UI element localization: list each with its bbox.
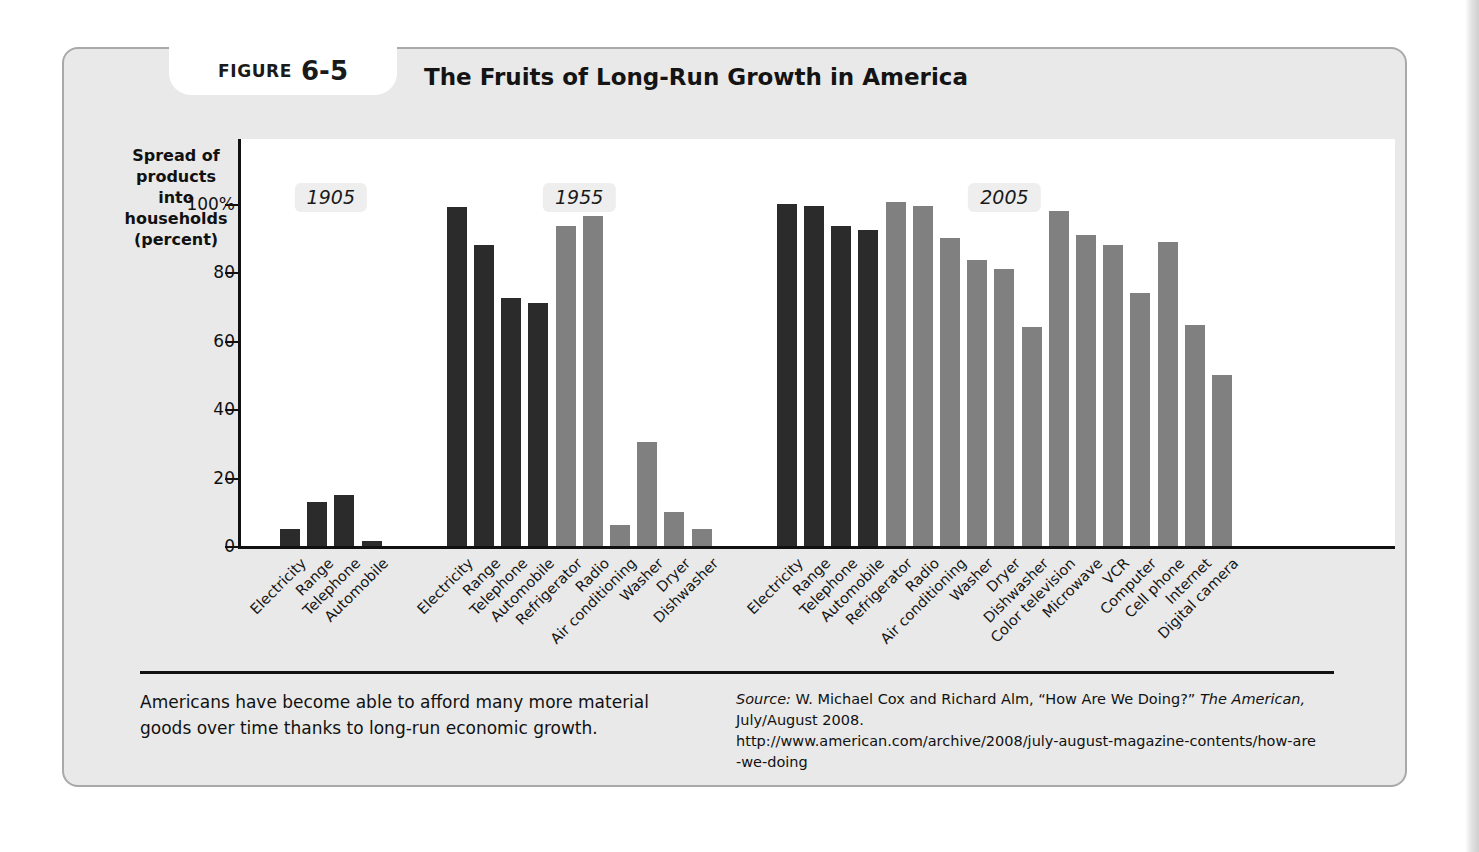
footer-divider xyxy=(140,671,1334,674)
y-tick-label: 20 xyxy=(213,468,235,488)
bar xyxy=(334,495,354,546)
source-prefix: Source: xyxy=(736,691,791,707)
page-edge-shade xyxy=(1465,0,1479,852)
bar xyxy=(280,529,300,546)
bar xyxy=(307,502,327,546)
y-tick-label: 100% xyxy=(186,194,235,214)
group-label-2005: 2005 xyxy=(968,183,1040,212)
bar xyxy=(556,226,576,546)
bar xyxy=(831,226,851,546)
figure-page: FIGURE 6-5 The Fruits of Long-Run Growth… xyxy=(0,0,1479,852)
source-line1: W. Michael Cox and Richard Alm, “How Are… xyxy=(791,691,1200,707)
bar xyxy=(940,238,960,546)
y-tick-label: 40 xyxy=(213,399,235,419)
bar xyxy=(1076,235,1096,546)
bar xyxy=(610,525,630,546)
figure-source: Source: W. Michael Cox and Richard Alm, … xyxy=(736,689,1316,773)
bar xyxy=(1158,242,1178,546)
bar xyxy=(858,230,878,546)
bar xyxy=(1130,293,1150,546)
figure-caption: Americans have become able to afford man… xyxy=(140,689,680,742)
y-tick-label: 0 xyxy=(224,536,235,556)
bar xyxy=(994,269,1014,546)
bar xyxy=(362,541,382,546)
source-url: http://www.american.com/archive/2008/jul… xyxy=(736,731,1316,773)
figure-label-word: FIGURE xyxy=(218,61,292,81)
source-line2: July/August 2008. xyxy=(736,712,864,728)
bar xyxy=(886,202,906,546)
bar xyxy=(637,442,657,546)
bar xyxy=(474,245,494,546)
bar xyxy=(777,204,797,546)
figure-label-tab: FIGURE 6-5 xyxy=(169,47,397,95)
y-tick-label: 60 xyxy=(213,331,235,351)
bar xyxy=(1103,245,1123,546)
figure-title: The Fruits of Long-Run Growth in America xyxy=(424,57,968,97)
y-axis-line xyxy=(238,139,241,549)
bar xyxy=(447,207,467,546)
bar xyxy=(804,206,824,546)
bar xyxy=(1185,325,1205,546)
y-tick-label: 80 xyxy=(213,262,235,282)
bar xyxy=(583,216,603,546)
figure-container: FIGURE 6-5 The Fruits of Long-Run Growth… xyxy=(62,47,1407,787)
bar xyxy=(664,512,684,546)
bar xyxy=(1049,211,1069,546)
bar xyxy=(528,303,548,546)
group-label-1905: 1905 xyxy=(295,183,367,212)
bar xyxy=(913,206,933,546)
group-label-1955: 1955 xyxy=(543,183,615,212)
source-publication: The American, xyxy=(1200,691,1305,707)
category-labels: ElectricityRangeTelephoneAutomobileElect… xyxy=(238,549,1395,669)
bar xyxy=(501,298,521,546)
bar xyxy=(692,529,712,546)
bar xyxy=(967,260,987,546)
bar xyxy=(1212,375,1232,546)
figure-label-number: 6-5 xyxy=(301,56,348,86)
bar xyxy=(1022,327,1042,546)
plot-area: 100%806040200 190519552005 xyxy=(238,139,1395,549)
